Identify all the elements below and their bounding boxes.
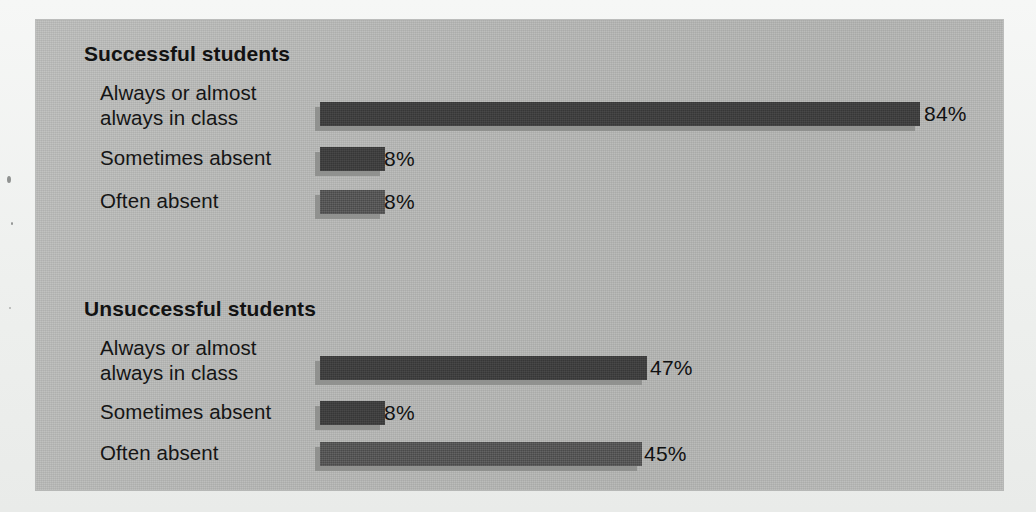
bar-container: 47% [320,356,647,380]
bar-row-label: Sometimes absent [100,145,271,170]
bar-row-label: Often absent [100,188,219,213]
scan-speck [9,307,11,309]
bar-container: 84% [320,102,920,126]
bar-row-label: Sometimes absent [100,399,271,424]
group-title-unsuccessful: Unsuccessful students [84,297,316,321]
scan-speck [11,222,13,225]
bar-container: 8% [320,401,385,425]
bar-84 [320,102,920,126]
bar-8-sometimes [320,147,385,171]
bar-value-label: 47% [650,356,693,380]
chart-screenshot: Successful students Always or almost alw… [0,0,1036,512]
bar-8-often [320,190,385,214]
bar-container: 45% [320,442,642,466]
bar-container: 8% [320,190,385,214]
bar-row-label: Often absent [100,440,219,465]
bar-value-label: 8% [384,147,415,171]
bar-47 [320,356,647,380]
bar-value-label: 45% [644,442,687,466]
chart-panel: Successful students Always or almost alw… [36,20,1003,490]
bar-45 [320,442,642,466]
bar-row-label: Always or almost always in class [100,335,257,385]
bar-row-label: Always or almost always in class [100,80,257,130]
bar-value-label: 84% [924,102,967,126]
bar-value-label: 8% [384,401,415,425]
bar-8-sometimes-unsuccessful [320,401,385,425]
group-title-successful: Successful students [84,42,290,66]
scan-speck [7,176,11,183]
bar-container: 8% [320,147,385,171]
bar-value-label: 8% [384,190,415,214]
